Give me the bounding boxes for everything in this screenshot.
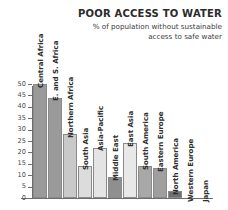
y-axis-tick [28, 175, 32, 176]
y-axis-tick [28, 130, 32, 131]
category-label: Japan [203, 179, 210, 201]
y-axis-tick-label: 10 [14, 172, 26, 179]
category-label: Northern Africa [68, 76, 75, 137]
x-axis-line [21, 198, 213, 199]
y-axis-tick-label: 30 [14, 126, 26, 133]
chart-subtitle-line-2: access to safe water [32, 32, 222, 42]
category-label: Eastern Europe [158, 111, 165, 171]
bar[interactable] [93, 148, 107, 198]
bar[interactable] [78, 166, 92, 198]
bar[interactable] [153, 168, 167, 198]
category-label: Middle East [113, 135, 120, 181]
category-label: North America [173, 138, 180, 195]
y-axis-tick-label: 15 [14, 160, 26, 167]
plot-area [33, 84, 213, 198]
y-axis-tick [28, 141, 32, 142]
bars-layer [33, 84, 213, 198]
bar[interactable] [48, 98, 62, 198]
y-axis-tick-label: 25 [14, 138, 26, 145]
chart-header: POOR ACCESS TO WATER % of population wit… [32, 8, 222, 41]
bar[interactable] [138, 166, 152, 198]
category-label: Asia-Pacific [98, 106, 105, 151]
y-axis-tick [28, 84, 32, 85]
category-label: South Asia [83, 127, 90, 169]
chart-container: POOR ACCESS TO WATER % of population wit… [0, 0, 228, 210]
y-axis-tick [28, 95, 32, 96]
category-label: Western Europe [188, 138, 195, 201]
y-axis-tick [28, 164, 32, 165]
chart-subtitle-line-1: % of population without sustainable [32, 22, 222, 32]
category-label: East Asia [128, 111, 135, 147]
y-axis-tick-label: 50 [14, 81, 26, 88]
y-axis-tick-label: 20 [14, 149, 26, 156]
y-axis-tick [28, 187, 32, 188]
bar[interactable] [63, 134, 77, 198]
y-axis-tick [28, 118, 32, 119]
bar-slot [48, 84, 63, 198]
y-axis-tick [28, 107, 32, 108]
y-axis-tick-label: 5 [14, 183, 26, 190]
bar[interactable] [33, 84, 47, 198]
chart-title: POOR ACCESS TO WATER [32, 8, 222, 20]
chart-subtitle: % of population without sustainable acce… [32, 22, 222, 41]
bar-slot [33, 84, 48, 198]
y-axis-tick [28, 152, 32, 153]
y-axis-tick-label: 45 [14, 92, 26, 99]
y-axis-tick [28, 198, 32, 199]
y-axis-tick-label: 40 [14, 103, 26, 110]
bar[interactable] [123, 143, 137, 198]
y-axis-tick-label: 35 [14, 115, 26, 122]
y-axis-tick-label: 0 [14, 195, 26, 202]
category-label: Central Africa [38, 33, 45, 87]
category-label: South America [143, 112, 150, 170]
category-label: E. and S. Africa [53, 41, 60, 101]
